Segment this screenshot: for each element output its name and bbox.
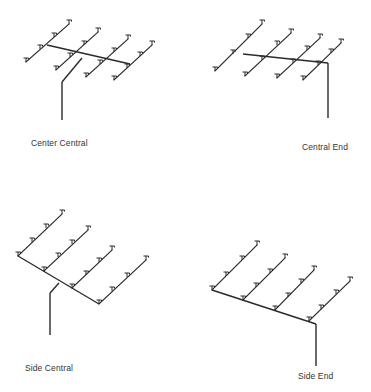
side-end-label: Side End (298, 371, 333, 381)
sprinkler-head-icon (312, 266, 317, 270)
sprinkler-head-icon (126, 35, 131, 39)
sprinkler-head-icon (255, 241, 260, 245)
side-end-diagram (210, 241, 353, 366)
sprinkler-head-icon (150, 41, 155, 45)
central-end-label: Central End (302, 142, 348, 152)
branch-line-pipe (212, 245, 257, 290)
branch-line-pipe (99, 260, 146, 304)
center-central-diagram (24, 20, 155, 120)
central-end-diagram (213, 20, 344, 118)
branch-line-pipe (215, 24, 262, 71)
sprinkler-head-icon (60, 210, 65, 214)
branch-line-pipe (44, 230, 88, 271)
sprinkler-head-icon (86, 226, 91, 230)
cross-main-pipe (212, 290, 316, 324)
branch-line-pipe (243, 258, 285, 300)
side-central-diagram (16, 210, 149, 335)
sprinkler-head-icon (348, 277, 353, 281)
sprinkler-head-icon (110, 246, 115, 250)
branch-line-pipe (18, 214, 62, 256)
sprinkler-head-icon (283, 254, 288, 258)
sprinkler-head-icon (260, 20, 265, 24)
branch-line-pipe (275, 270, 314, 310)
sprinkler-head-icon (318, 34, 323, 38)
branch-line-pipe (114, 45, 152, 80)
branch-line-pipe (72, 250, 112, 288)
feed-main-pipe (50, 283, 59, 293)
cross-main-pipe (243, 54, 328, 63)
sprinkler-head-icon (289, 29, 294, 33)
sprinkler-head-icon (67, 20, 72, 24)
cross-main-pipe (18, 256, 99, 304)
branch-line-pipe (26, 24, 69, 62)
sprinkler-layout-diagrams (0, 0, 371, 392)
branch-line-pipe (86, 39, 128, 77)
sprinkler-head-icon (144, 256, 149, 260)
sprinkler-head-icon (96, 28, 101, 32)
center-central-label: Center Central (31, 138, 88, 148)
sprinkler-head-icon (339, 39, 344, 43)
side-central-label: Side Central (25, 363, 73, 373)
branch-line-pipe (309, 281, 350, 321)
